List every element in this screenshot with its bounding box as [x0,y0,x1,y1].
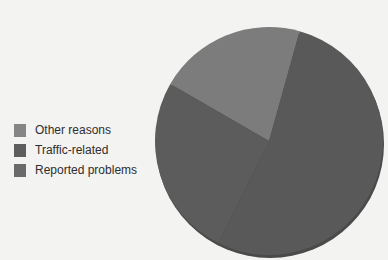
legend-item-other-reasons: Other reasons [14,121,137,139]
legend-swatch [14,124,26,137]
legend-label: Other reasons [35,123,111,137]
legend-swatch [14,164,26,177]
legend-label: Reported problems [35,163,137,177]
chart-legend: Other reasons Traffic-related Reported p… [14,121,137,181]
legend-swatch [14,144,26,157]
legend-item-traffic-related: Traffic-related [14,141,137,159]
pie-chart-svg [155,24,388,260]
legend-label: Traffic-related [35,143,108,157]
legend-item-reported-problems: Reported problems [14,161,137,179]
pie-chart [155,24,388,260]
